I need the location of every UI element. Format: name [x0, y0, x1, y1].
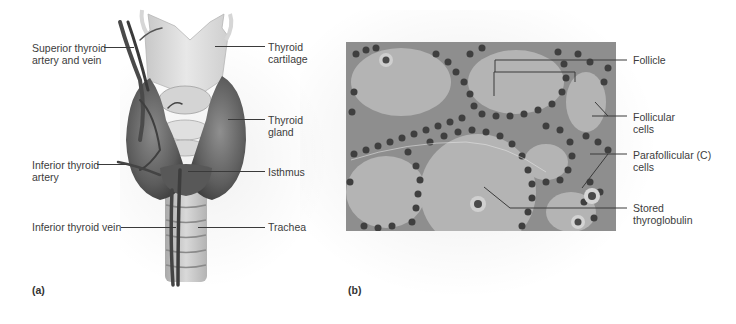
- label-follicle: Follicle: [633, 54, 666, 66]
- leader-superior-thyroid: [104, 47, 134, 48]
- panel-label-b: (b): [348, 284, 361, 296]
- label-inferior-thyroid-vein: Inferior thyroid vein: [32, 221, 121, 233]
- micrograph-image: [346, 42, 616, 231]
- label-superior-thyroid-artery-and-vein: Superior thyroid artery and vein: [32, 42, 106, 66]
- leader-isthmus: [188, 171, 265, 172]
- label-stored-thyroglobulin: Stored thyroglobulin: [633, 202, 693, 226]
- leader-inferior-thyroid-vein: [121, 227, 176, 228]
- label-inferior-thyroid-artery: Inferior thyroid artery: [32, 159, 99, 183]
- label-parafollicular-cells: Parafollicular (C) cells: [633, 149, 711, 173]
- label-thyroid-cartilage: Thyroid cartilage: [268, 41, 308, 65]
- leader-thyroid-cartilage: [215, 46, 265, 47]
- label-thyroid-gland: Thyroid gland: [268, 114, 303, 138]
- leader-inferior-thyroid-artery: [97, 164, 127, 165]
- thyroid-follicle-micrograph: [346, 42, 616, 231]
- panel-label-a: (a): [32, 284, 45, 296]
- label-isthmus: Isthmus: [268, 166, 305, 178]
- leader-trachea: [198, 227, 265, 228]
- leader-thyroid-gland: [228, 119, 265, 120]
- label-follicular-cells: Follicular cells: [633, 111, 675, 135]
- label-trachea: Trachea: [268, 221, 306, 233]
